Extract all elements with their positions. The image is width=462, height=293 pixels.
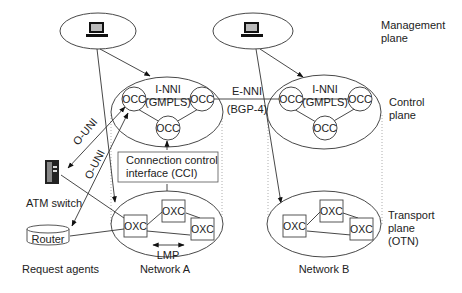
svg-text:OCC: OCC xyxy=(313,122,337,134)
svg-text:OXC: OXC xyxy=(191,223,214,235)
svg-text:OXC: OXC xyxy=(283,220,306,232)
control-plane-label: Control xyxy=(389,96,424,108)
svg-text:OCC: OCC xyxy=(279,93,303,105)
lmp-label: LMP xyxy=(157,249,180,261)
control-plane-label-2: plane xyxy=(389,109,416,121)
inni-sub-label-b: (GMPLS) xyxy=(302,96,348,108)
network-b-caption: Network B xyxy=(299,263,350,275)
occ-node: OCC xyxy=(348,87,372,111)
occ-node: OCC xyxy=(190,87,214,111)
svg-text:OCC: OCC xyxy=(122,93,146,105)
atm-switch-icon xyxy=(45,160,59,184)
oxc-node: OXC xyxy=(320,200,343,222)
management-plane-label: Management xyxy=(381,19,445,31)
svg-text:interface (CCI): interface (CCI) xyxy=(126,167,198,179)
ouni-label-1: O-UNI xyxy=(70,116,99,148)
inni-label-b: I-NNI xyxy=(312,83,338,95)
oxc-node: OXC xyxy=(162,200,185,222)
management-node-b xyxy=(213,13,293,49)
cci-box: Connection control interface (CCI) xyxy=(118,152,218,182)
router-label: Router xyxy=(31,233,64,245)
svg-text:OCC: OCC xyxy=(190,93,214,105)
transport-plane-label-2: plane xyxy=(388,222,415,234)
oxc-node: OXC xyxy=(283,215,306,237)
transport-plane-label: Transport xyxy=(388,209,435,221)
occ-node: OCC xyxy=(122,87,146,111)
gmpls-architecture-diagram: OCC OCC OCC OCC OCC OCC I-NNI (GMPLS) I-… xyxy=(0,0,462,293)
svg-text:OCC: OCC xyxy=(156,122,180,134)
enni-label: E-NNI xyxy=(232,85,262,97)
occ-node: OCC xyxy=(279,87,303,111)
svg-text:OXC: OXC xyxy=(124,220,147,232)
inni-label-a: I-NNI xyxy=(155,83,181,95)
svg-text:OCC: OCC xyxy=(348,93,372,105)
svg-text:Connection control: Connection control xyxy=(126,154,218,166)
management-node-a xyxy=(60,13,136,49)
transport-plane-label-3: (OTN) xyxy=(388,235,419,247)
atm-switch-label: ATM switch xyxy=(26,197,82,209)
request-agents-caption: Request agents xyxy=(22,263,100,275)
oxc-node: OXC xyxy=(124,215,147,237)
svg-text:OXC: OXC xyxy=(162,205,185,217)
network-a-caption: Network A xyxy=(140,263,191,275)
occ-node: OCC xyxy=(313,116,337,140)
management-plane-label-2: plane xyxy=(381,32,408,44)
svg-text:OXC: OXC xyxy=(350,223,373,235)
svg-text:OXC: OXC xyxy=(320,205,343,217)
inni-sub-label-a: (GMPLS) xyxy=(145,96,191,108)
oxc-node: OXC xyxy=(191,218,214,240)
occ-node: OCC xyxy=(156,116,180,140)
ouni-label-2: O-UNI xyxy=(82,148,107,181)
oxc-node: OXC xyxy=(350,218,373,240)
enni-sub-label: (BGP-4) xyxy=(227,103,267,115)
